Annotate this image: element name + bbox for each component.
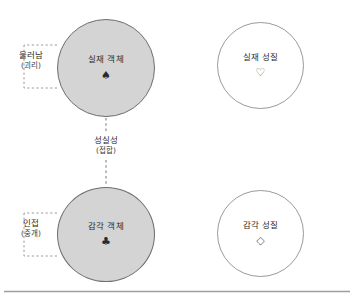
node-real-object-label: 실재 객체 [88,55,124,64]
edge-label-sincerity-sub: (접합) [72,146,140,155]
node-real-object: 실재 객체 ♠ [57,19,155,117]
node-sense-quality-label: 감각 성질 [243,221,279,230]
node-real-quality-label: 실재 성질 [243,53,279,62]
bracket-label-contiguity-main: 인접 [9,218,53,229]
node-sense-quality: 감각 성질 ◇ [217,190,304,277]
spade-symbol: ♠ [101,70,111,81]
figure-area: 실재 객체 ♠ 실재 성질 ♡ 감각 객체 ♣ 감각 성질 ◇ 성실성 (접합)… [0,0,354,307]
heart-outline-symbol: ♡ [256,67,266,78]
bracket-label-contiguity-sub: (중개) [9,229,53,238]
node-sense-object: 감각 객체 ♣ [57,187,155,282]
bracket-label-contiguity: 인접 (중개) [9,218,53,238]
node-sense-object-label: 감각 객체 [88,222,124,231]
diamond-outline-symbol: ◇ [256,235,264,246]
edge-label-sincerity-main: 성실성 [72,135,140,146]
edge-label-sincerity: 성실성 (접합) [72,135,140,155]
node-real-quality: 실재 성질 ♡ [217,22,304,109]
diagram-canvas: 실재 객체 ♠ 실재 성질 ♡ 감각 객체 ♣ 감각 성질 ◇ 성실성 (접합)… [0,0,354,307]
club-symbol: ♣ [101,236,111,247]
bracket-label-disjunction: 물러남 (괴리) [9,50,53,70]
bracket-label-disjunction-sub: (괴리) [9,61,53,70]
diagram-vector-layer [0,0,354,307]
bracket-label-disjunction-main: 물러남 [9,50,53,61]
